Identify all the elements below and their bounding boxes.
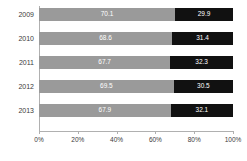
bar-value-label: 70.1 xyxy=(101,11,114,18)
x-axis-tick xyxy=(117,131,118,134)
bar-value-label: 30.5 xyxy=(197,83,210,90)
bar-value-label: 32.1 xyxy=(196,107,209,114)
table-row: 67.9 32.1 xyxy=(39,104,233,117)
x-axis-line xyxy=(39,131,234,132)
stacked-bar-chart: 70.1 29.9 68.6 31.4 67.7 32.3 xyxy=(0,0,247,161)
bar-value-label: 67.7 xyxy=(98,59,111,66)
bar-segment-series-2[interactable]: 31.4 xyxy=(172,32,233,45)
bar-value-label: 68.6 xyxy=(99,35,112,42)
bar-segment-series-2[interactable]: 29.9 xyxy=(175,8,233,21)
bar-segment-series-1[interactable]: 69.5 xyxy=(39,80,174,93)
x-axis-tick-label: 20% xyxy=(63,137,93,144)
bar-value-label: 31.4 xyxy=(196,35,209,42)
bar-segment-series-2[interactable]: 32.1 xyxy=(171,104,233,117)
x-axis-tick-label: 60% xyxy=(140,137,170,144)
y-axis-tick-label: 2011 xyxy=(0,56,34,69)
bar-value-label: 69.5 xyxy=(100,83,113,90)
x-axis-tick-label: 80% xyxy=(179,137,209,144)
table-row: 68.6 31.4 xyxy=(39,32,233,45)
x-axis-tick-label: 100% xyxy=(218,137,247,144)
y-axis-tick-label: 2010 xyxy=(0,32,34,45)
table-row: 67.7 32.3 xyxy=(39,56,233,69)
bar-segment-series-2[interactable]: 30.5 xyxy=(174,80,233,93)
table-row: 70.1 29.9 xyxy=(39,8,233,21)
bar-segment-series-1[interactable]: 67.9 xyxy=(39,104,171,117)
bar-segment-series-2[interactable]: 32.3 xyxy=(170,56,233,69)
x-axis-tick xyxy=(78,131,79,134)
y-axis-tick-label: 2012 xyxy=(0,80,34,93)
x-axis-tick-label: 40% xyxy=(102,137,132,144)
bar-segment-series-1[interactable]: 70.1 xyxy=(39,8,175,21)
bar-segment-series-1[interactable]: 67.7 xyxy=(39,56,170,69)
bar-value-label: 29.9 xyxy=(198,11,211,18)
x-axis-tick xyxy=(39,131,40,134)
plot-area: 70.1 29.9 68.6 31.4 67.7 32.3 xyxy=(39,6,233,131)
x-axis-tick xyxy=(155,131,156,134)
bar-value-label: 67.9 xyxy=(99,107,112,114)
y-axis-tick-label: 2013 xyxy=(0,104,34,117)
table-row: 69.5 30.5 xyxy=(39,80,233,93)
x-axis-tick xyxy=(194,131,195,134)
bar-value-label: 32.3 xyxy=(195,59,208,66)
x-axis-tick xyxy=(233,131,234,134)
bar-segment-series-1[interactable]: 68.6 xyxy=(39,32,172,45)
x-axis-tick-label: 0% xyxy=(24,137,54,144)
y-axis-tick-label: 2009 xyxy=(0,8,34,21)
